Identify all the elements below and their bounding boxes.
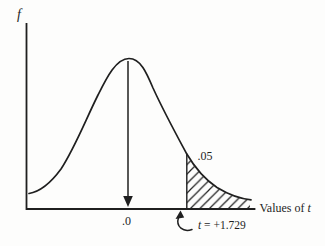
density-curve xyxy=(29,59,251,200)
x-axis-label: Values of t xyxy=(260,201,312,215)
mean-arrowhead xyxy=(123,196,133,207)
critical-value-label: t = +1.729 xyxy=(198,219,246,231)
rejection-region-hatch xyxy=(187,155,250,208)
critical-value-arrow xyxy=(178,218,192,231)
critical-value-arrowhead xyxy=(176,211,185,220)
t-distribution-plot: f .0 .05 t = +1.729 Values of t xyxy=(0,0,325,246)
y-axis-label: f xyxy=(17,7,23,22)
critical-value-number: = +1.729 xyxy=(201,219,246,231)
tail-area-label: .05 xyxy=(198,149,213,163)
mean-tick-label: .0 xyxy=(122,214,131,228)
x-axis-label-variable: t xyxy=(308,201,312,215)
axes-line xyxy=(27,24,255,209)
x-axis-label-prefix: Values of xyxy=(260,201,308,215)
t-distribution-figure: f .0 .05 t = +1.729 Values of t xyxy=(0,0,325,246)
